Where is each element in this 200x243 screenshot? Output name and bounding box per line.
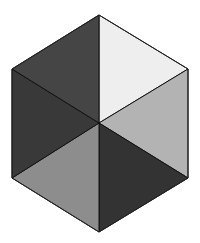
hexagon-diagram bbox=[0, 0, 200, 243]
